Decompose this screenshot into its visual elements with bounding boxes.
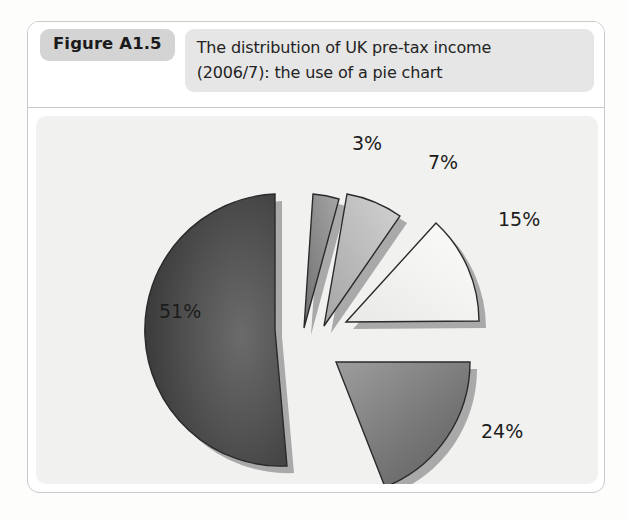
figure-title: The distribution of UK pre-tax income (2… [185, 29, 594, 92]
figure-screenshot: Figure A1.5 The distribution of UK pre-t… [0, 0, 628, 519]
slice-24[interactable] [336, 362, 470, 484]
figure-card: Figure A1.5 The distribution of UK pre-t… [27, 21, 605, 493]
label-24: 24% [481, 422, 523, 441]
figure-title-line-1: The distribution of UK pre-tax income [197, 35, 582, 60]
figure-header-inner: Figure A1.5 The distribution of UK pre-t… [40, 29, 594, 95]
chart-panel: 51% 3% 7% 15% 24% [36, 116, 598, 484]
figure-number-badge: Figure A1.5 [40, 29, 175, 61]
figure-title-line-2: (2006/7): the use of a pie chart [197, 60, 582, 85]
label-7: 7% [428, 153, 458, 172]
label-51: 51% [159, 302, 201, 321]
figure-header: Figure A1.5 The distribution of UK pre-t… [28, 22, 604, 108]
label-3: 3% [352, 134, 382, 153]
slice-51[interactable] [145, 194, 287, 466]
label-15: 15% [498, 210, 540, 229]
